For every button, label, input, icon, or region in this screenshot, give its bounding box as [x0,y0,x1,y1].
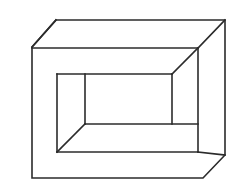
paper-background [0,0,234,184]
impossible-box-drawing [0,0,234,184]
figure-stage: 4. [0,0,234,184]
